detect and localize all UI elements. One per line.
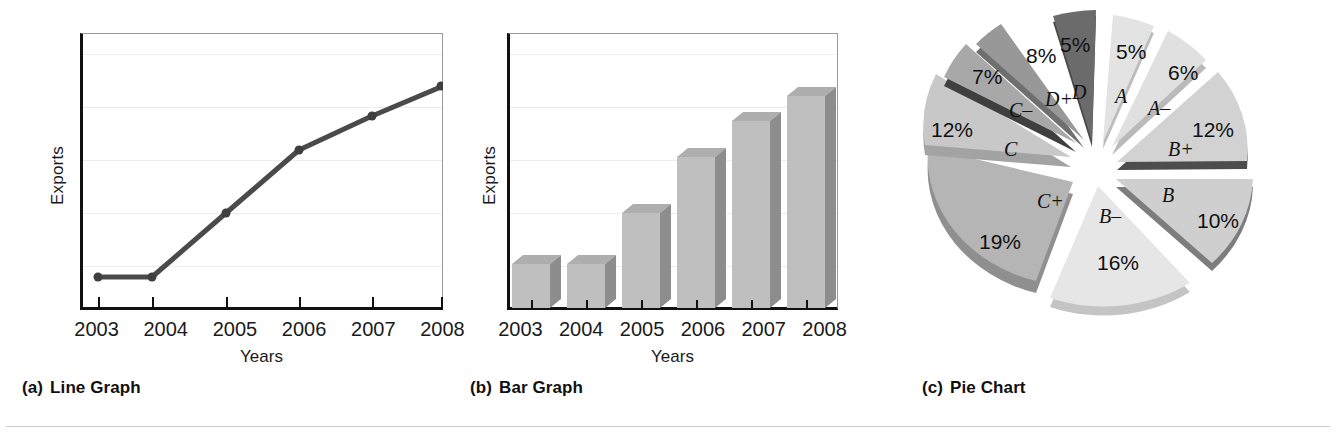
bar-graph-y-axis-title: Exports — [480, 146, 500, 205]
pie-category-label-C: C — [1004, 138, 1018, 160]
line-graph-x-axis-title: Years — [80, 347, 443, 367]
x-tick — [641, 300, 643, 310]
caption-pie-chart: (c)Pie Chart — [922, 378, 1026, 398]
pie-category-label-D: D — [1071, 81, 1087, 103]
pie-category-label-B-minus: B– — [1099, 205, 1122, 227]
pie-value-label-A: 5% — [1116, 40, 1146, 63]
pie-slice-D — [1053, 10, 1096, 147]
x-tick-label: 2008 — [408, 318, 477, 341]
bar-graph-x-axis-title: Years — [507, 347, 838, 367]
x-tick — [586, 300, 588, 310]
x-tick-label: 2007 — [339, 318, 408, 341]
caption-index: (a) — [22, 378, 43, 397]
bar-2006 — [677, 148, 726, 308]
pie-category-label-A: A — [1113, 85, 1128, 107]
panel-bar-graph: Exports 2003 2004 2005 2006 2007 2008 Ye… — [470, 0, 900, 439]
pie-value-label-B: 10% — [1197, 209, 1239, 232]
x-tick-label: 2007 — [733, 318, 794, 341]
bar-2007 — [732, 112, 781, 308]
caption-line-graph: (a)Line Graph — [22, 378, 141, 398]
caption-label: Pie Chart — [950, 378, 1026, 397]
caption-bar-graph: (b)Bar Graph — [470, 378, 583, 398]
x-tick — [152, 297, 154, 310]
pie-category-label-B-plus: B+ — [1168, 138, 1194, 160]
line-series-markers — [94, 82, 444, 282]
bar-2003 — [512, 255, 561, 308]
bar-2005 — [622, 204, 671, 308]
x-tick-label: 2008 — [794, 318, 855, 341]
caption-index: (b) — [470, 378, 492, 397]
pie-category-label-A-minus: A– — [1146, 97, 1171, 119]
bar-2004 — [567, 255, 616, 308]
x-tick-label: 2005 — [612, 318, 673, 341]
x-tick — [696, 300, 698, 310]
panel-line-graph: Exports 2003 2004 2005 2006 2007 2008 Ye… — [0, 0, 470, 439]
pie-value-label-C: 12% — [931, 118, 973, 141]
pie-value-label-A-minus: 6% — [1168, 61, 1198, 84]
pie-value-label-D-plus: 8% — [1026, 44, 1056, 67]
pie-category-label-C-plus: C+ — [1037, 190, 1064, 212]
caption-index: (c) — [922, 378, 943, 397]
line-graph-x-tick-labels: 2003 2004 2005 2006 2007 2008 — [62, 318, 477, 341]
pie-category-label-D-plus: D+ — [1044, 88, 1073, 110]
line-graph-y-axis-title: Exports — [48, 146, 68, 205]
bar-2008 — [787, 87, 836, 308]
pie-value-label-C-minus: 7% — [972, 65, 1002, 88]
figure-bottom-rule — [6, 426, 1330, 427]
x-tick — [299, 297, 301, 310]
x-tick — [751, 300, 753, 310]
caption-label: Line Graph — [50, 378, 141, 397]
pie-value-label-C-plus: 19% — [979, 230, 1021, 253]
x-tick — [531, 300, 533, 310]
pie-value-label-B-plus: 12% — [1192, 118, 1234, 141]
bar-series — [507, 33, 838, 310]
x-tick-label: 2006 — [270, 318, 339, 341]
x-tick-label: 2003 — [490, 318, 551, 341]
pie-slice-C-plus — [928, 148, 1073, 293]
pie-category-label-B: B — [1162, 184, 1174, 206]
pie-value-label-B-minus: 16% — [1097, 251, 1139, 274]
pie-value-label-D: 5% — [1060, 33, 1090, 56]
x-tick — [806, 300, 808, 310]
pie-category-label-C-minus: C– — [1009, 99, 1033, 121]
x-tick — [372, 297, 374, 310]
line-series — [80, 33, 443, 310]
x-tick — [98, 297, 100, 310]
bar-graph-x-tick-labels: 2003 2004 2005 2006 2007 2008 — [490, 318, 855, 341]
x-tick — [441, 297, 443, 310]
x-tick-label: 2004 — [131, 318, 200, 341]
caption-label: Bar Graph — [499, 378, 583, 397]
line-series-path — [98, 86, 443, 277]
x-tick — [226, 297, 228, 310]
x-tick-label: 2003 — [62, 318, 131, 341]
panel-pie-chart: .pl{font-family:"Liberation Serif", seri… — [900, 0, 1336, 439]
x-tick-label: 2006 — [672, 318, 733, 341]
x-tick-label: 2005 — [200, 318, 269, 341]
pie-chart: .pl{font-family:"Liberation Serif", seri… — [900, 0, 1336, 330]
x-tick-label: 2004 — [551, 318, 612, 341]
